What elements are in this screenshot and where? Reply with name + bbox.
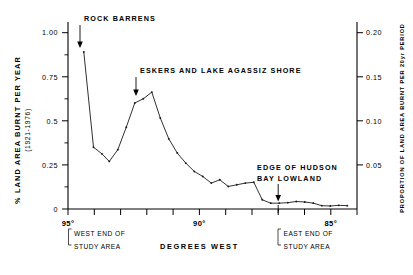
data-point bbox=[227, 186, 229, 188]
x-axis-title: DEGREES WEST bbox=[160, 242, 239, 251]
data-point bbox=[253, 181, 255, 183]
data-point bbox=[261, 199, 263, 201]
data-point bbox=[93, 146, 95, 148]
data-point bbox=[338, 204, 340, 206]
data-point bbox=[287, 202, 289, 204]
data-point bbox=[117, 149, 119, 151]
data-point bbox=[83, 51, 85, 53]
x-ticklabel-90: 90° bbox=[193, 219, 206, 228]
chart-svg: 1.00 0.75 0.5 0.25 0 % LAND AREA BURNT P… bbox=[0, 0, 413, 275]
data-point bbox=[346, 205, 348, 207]
data-point bbox=[278, 202, 280, 204]
west-end-brace bbox=[69, 229, 72, 245]
data-point bbox=[176, 152, 178, 154]
x-axis: 95° 90° 85° bbox=[62, 209, 357, 228]
y-axis-right-title: PROPORTION OF LAND AREA BURNT PER 20yr P… bbox=[399, 23, 405, 213]
annotation-eskers-arrowhead bbox=[133, 90, 139, 97]
annotation-rock-barrens-arrowhead bbox=[77, 42, 83, 49]
y-ticklabel-left-3: 0.75 bbox=[42, 73, 58, 82]
west-end-label-line1: WEST END OF bbox=[74, 230, 125, 237]
annotation-eskers-lake-agassiz: ESKERS AND LAKE AGASSIZ SHORE bbox=[133, 66, 301, 96]
annotation-hudson-arrowhead bbox=[275, 195, 281, 202]
y-ticklabel-left-2: 0.5 bbox=[47, 117, 59, 126]
west-end-of-study-area-marker: WEST END OF STUDY AREA bbox=[69, 229, 126, 250]
data-point bbox=[193, 170, 195, 172]
data-point bbox=[151, 91, 153, 93]
x-ticklabel-95: 95° bbox=[62, 219, 75, 228]
y-axis-left-subtitle: (1921-1976) bbox=[24, 108, 32, 152]
y-ticklabel-left-4: 1.00 bbox=[42, 28, 58, 37]
data-point bbox=[236, 184, 238, 186]
east-end-label-line1: EAST END OF bbox=[284, 230, 333, 237]
data-point bbox=[202, 175, 204, 177]
data-point bbox=[185, 162, 187, 164]
east-end-label-line2: STUDY AREA bbox=[284, 243, 331, 250]
y-ticklabel-left-1: 0.25 bbox=[42, 161, 58, 170]
data-point bbox=[321, 205, 323, 207]
annotation-hudson-label-line1: EDGE OF HUDSON bbox=[257, 163, 338, 172]
data-point bbox=[108, 160, 110, 162]
data-point bbox=[168, 138, 170, 140]
chart-figure: 1.00 0.75 0.5 0.25 0 % LAND AREA BURNT P… bbox=[0, 0, 413, 275]
data-point bbox=[210, 182, 212, 184]
annotation-rock-barrens: ROCK BARRENS bbox=[77, 14, 156, 48]
annotation-eskers-label: ESKERS AND LAKE AGASSIZ SHORE bbox=[140, 66, 302, 75]
data-point bbox=[142, 98, 144, 100]
east-end-brace bbox=[278, 229, 281, 245]
annotation-hudson-label-line2: BAY LOWLAND bbox=[257, 174, 322, 183]
west-end-label-line2: STUDY AREA bbox=[74, 243, 121, 250]
y-axis-left-title: % LAND AREA BURNT PER YEAR bbox=[13, 56, 22, 204]
data-point bbox=[125, 126, 127, 128]
data-point bbox=[295, 201, 297, 203]
data-point bbox=[270, 202, 272, 204]
y-ticklabel-left-0: 0 bbox=[54, 205, 59, 214]
y-ticklabel-right-2: 0.15 bbox=[366, 73, 382, 82]
annotation-rock-barrens-label: ROCK BARRENS bbox=[84, 14, 156, 23]
data-point bbox=[134, 102, 136, 104]
data-point bbox=[159, 117, 161, 119]
data-point bbox=[244, 182, 246, 184]
y-ticklabel-right-1: 0.10 bbox=[366, 117, 382, 126]
x-ticklabel-85: 85° bbox=[324, 219, 337, 228]
y-axis-right: 0.20 0.15 0.10 0.05 bbox=[357, 22, 382, 209]
data-point bbox=[101, 153, 103, 155]
y-ticklabel-right-0: 0.05 bbox=[366, 161, 382, 170]
data-point bbox=[304, 201, 306, 203]
y-axis-left: 1.00 0.75 0.5 0.25 0 bbox=[42, 22, 68, 214]
data-point bbox=[219, 179, 221, 181]
data-point bbox=[329, 205, 331, 207]
data-point bbox=[312, 202, 314, 204]
y-ticklabel-right-3: 0.20 bbox=[366, 28, 382, 37]
annotation-edge-hudson-bay-lowland: EDGE OF HUDSON BAY LOWLAND bbox=[257, 163, 338, 202]
